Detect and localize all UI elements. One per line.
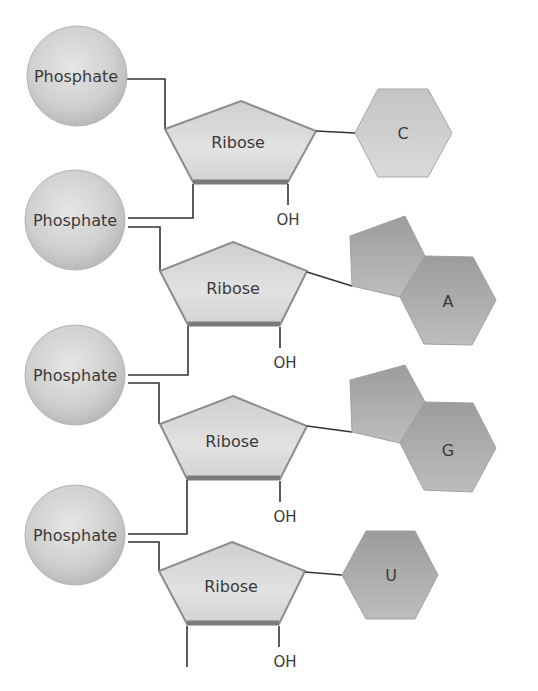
- hydroxyl-label: OH: [273, 508, 296, 526]
- hydroxyl-label: OH: [273, 653, 296, 671]
- hydroxyl-label: OH: [276, 211, 299, 229]
- phosphate-1: Phosphate: [27, 26, 127, 126]
- phosphate-2: Phosphate: [25, 170, 125, 270]
- hydroxyl-label: OH: [273, 354, 296, 372]
- rna-strand-diagram: Phosphate Ribose OH C Phosphate Ribose O…: [0, 0, 538, 691]
- phosphate-label: Phosphate: [33, 526, 117, 545]
- base-label: A: [443, 292, 454, 311]
- base-u: U: [342, 531, 438, 619]
- base-label: U: [385, 566, 397, 585]
- phosphate-label: Phosphate: [34, 67, 118, 86]
- phosphate-label: Phosphate: [33, 366, 117, 385]
- ribose-1: Ribose: [165, 101, 316, 182]
- ribose-label: Ribose: [211, 133, 265, 152]
- base-label: G: [442, 441, 454, 460]
- phosphate-label: Phosphate: [33, 211, 117, 230]
- ribose-label: Ribose: [206, 279, 260, 298]
- ribose-label: Ribose: [205, 432, 259, 451]
- phosphate-4: Phosphate: [25, 485, 125, 585]
- nucleotide-4: Phosphate Ribose OH U: [25, 485, 438, 671]
- ribose-label: Ribose: [204, 577, 258, 596]
- phosphate-3: Phosphate: [25, 325, 125, 425]
- ribose-4: Ribose: [159, 542, 305, 624]
- ribose-3: Ribose: [160, 396, 307, 479]
- ribose-2: Ribose: [160, 242, 307, 325]
- base-label: C: [397, 124, 408, 143]
- base-g: G: [350, 365, 496, 492]
- base-c: C: [355, 89, 452, 177]
- base-a: A: [350, 216, 496, 345]
